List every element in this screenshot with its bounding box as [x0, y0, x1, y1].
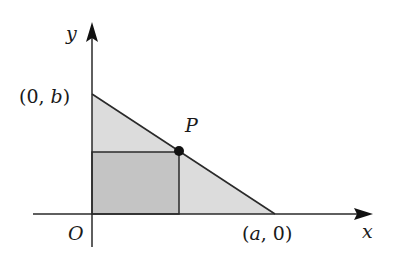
point-p-marker: [174, 146, 184, 156]
inscribed-rectangle: [92, 152, 179, 214]
x-intercept-label: (a, 0): [242, 222, 292, 244]
point-p-label: P: [184, 114, 199, 136]
x-axis-label: x: [362, 220, 373, 242]
origin-label: O: [68, 222, 84, 244]
y-intercept-label: (0, b): [19, 85, 70, 107]
diagram-canvas: y x O P (0, b) (a, 0): [0, 0, 393, 268]
y-axis-label: y: [65, 22, 77, 44]
